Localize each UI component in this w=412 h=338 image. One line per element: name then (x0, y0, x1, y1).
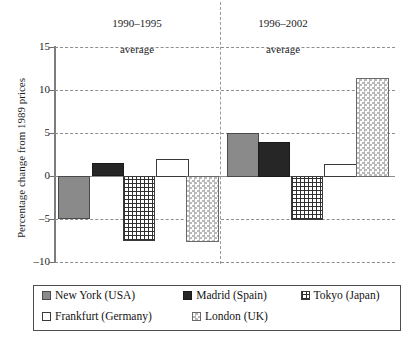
bar-new-york-1996-2002 (227, 133, 259, 177)
bar-frankfurt-1990-1995 (156, 159, 189, 177)
legend-item-new-york: New York (USA) (42, 289, 183, 301)
legend-label-new-york: New York (USA) (55, 289, 135, 301)
y-tick-label-5: 5 (16, 126, 50, 138)
bar-tokyo-1990-1995 (123, 176, 155, 241)
plot-area (55, 47, 395, 262)
legend-label-madrid: Madrid (Spain) (196, 289, 267, 301)
legend-label-frankfurt: Frankfurt (Germany) (55, 310, 152, 322)
y-axis-title: Percentage change from 1989 prices (15, 43, 27, 273)
gridline-neg10 (55, 262, 395, 263)
bar-madrid-1996-2002 (258, 142, 290, 177)
legend-item-london: London (UK) (192, 310, 302, 322)
bar-london-1990-1995 (186, 176, 219, 242)
legend-item-frankfurt: Frankfurt (Germany) (42, 310, 192, 322)
y-tick-label-neg10: –10 (16, 255, 50, 267)
y-tick-label-10: 10 (16, 83, 50, 95)
gridline-10 (55, 90, 395, 91)
gridline-15 (55, 47, 395, 48)
legend-swatch-frankfurt-icon (42, 312, 51, 321)
y-tick-label-15: 15 (16, 40, 50, 52)
bar-tokyo-1996-2002 (291, 176, 323, 220)
group-divider-line (220, 2, 221, 264)
chart-figure: 1990–1995 average 1996–2002 average Perc… (0, 0, 412, 338)
legend: New York (USA) Madrid (Spain) Tokyo (Jap… (33, 285, 401, 331)
legend-swatch-london-icon (192, 312, 201, 321)
legend-item-madrid: Madrid (Spain) (183, 289, 300, 301)
legend-swatch-tokyo-icon (301, 291, 310, 300)
gridline-neg5 (55, 219, 395, 220)
legend-label-london: London (UK) (205, 310, 268, 322)
bar-london-1996-2002 (356, 78, 389, 177)
y-tick-label-neg5: –5 (16, 212, 50, 224)
legend-swatch-new-york-icon (42, 291, 51, 300)
group-header-1996-2002-line1: 1996–2002 (228, 17, 338, 30)
bar-frankfurt-1996-2002 (324, 164, 357, 177)
bar-new-york-1990-1995 (58, 176, 90, 219)
legend-row-2: Frankfurt (Germany) London (UK) (34, 310, 400, 331)
bar-madrid-1990-1995 (92, 163, 124, 176)
y-tick-label-0: 0 (16, 169, 50, 181)
legend-item-tokyo: Tokyo (Japan) (301, 289, 400, 301)
legend-row-1: New York (USA) Madrid (Spain) Tokyo (Jap… (34, 289, 400, 310)
gridline-5 (55, 133, 395, 134)
legend-swatch-madrid-icon (183, 291, 192, 300)
group-header-1990-1995-line1: 1990–1995 (82, 17, 192, 30)
legend-label-tokyo: Tokyo (Japan) (314, 289, 380, 301)
